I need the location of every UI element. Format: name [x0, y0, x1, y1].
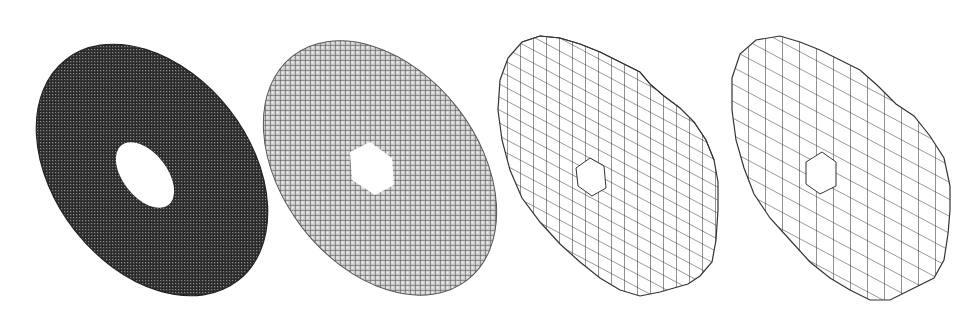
figure-canvas [0, 0, 980, 324]
voxel-disk-figure [0, 0, 980, 324]
